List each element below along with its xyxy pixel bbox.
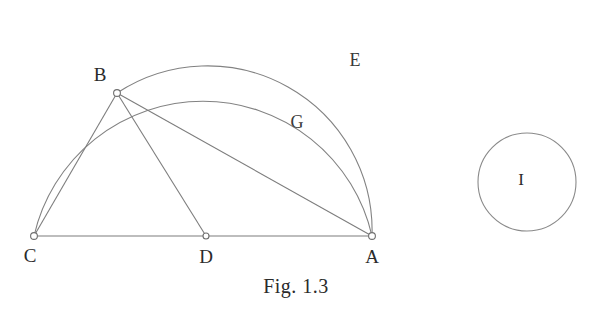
- arc-g-curve: [117, 66, 372, 236]
- arc-e-curve: [34, 101, 372, 236]
- vertex-marker-a: [369, 233, 376, 240]
- point-label-d: D: [199, 246, 213, 267]
- geometry-figure: C D A B E G I Fig. 1.3: [0, 0, 593, 312]
- point-label-b: B: [94, 64, 107, 85]
- vertex-marker-d: [203, 233, 209, 239]
- circle-i-outline: [478, 133, 576, 231]
- vertex-marker-b: [114, 90, 121, 97]
- arc-label-e: E: [350, 50, 361, 70]
- circle-label-i: I: [518, 170, 524, 189]
- point-label-c: C: [24, 245, 37, 266]
- vertex-marker-c: [31, 233, 38, 240]
- segment-chord-ba: [117, 93, 372, 236]
- point-label-a: A: [365, 246, 379, 267]
- segment-chord-cb: [34, 93, 117, 236]
- arc-label-g: G: [291, 112, 304, 132]
- figure-page: C D A B E G I Fig. 1.3: [0, 0, 593, 312]
- segment-chord-bd: [117, 93, 206, 236]
- figure-caption: Fig. 1.3: [263, 275, 329, 298]
